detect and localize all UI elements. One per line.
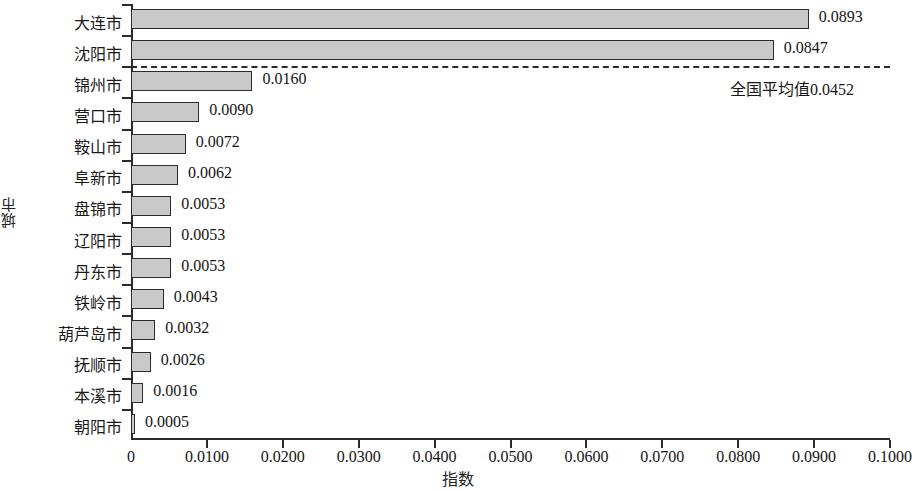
x-tick: [889, 440, 891, 448]
bar: [131, 102, 199, 122]
y-tick: [122, 66, 131, 68]
category-label: 辽阳市: [4, 228, 122, 252]
bar-row: 0.0026: [131, 347, 890, 378]
bar-row: 0.0053: [131, 222, 890, 253]
y-tick: [122, 378, 131, 380]
category-label: 鞍山市: [4, 134, 122, 158]
y-tick: [122, 315, 131, 317]
category-label: 营口市: [4, 103, 122, 127]
bar: [131, 165, 178, 185]
bar-value-label: 0.0053: [181, 195, 225, 213]
y-tick: [122, 253, 131, 255]
bar-value-label: 0.0053: [181, 226, 225, 244]
category-label: 盘锦市: [4, 196, 122, 220]
y-tick: [122, 35, 131, 37]
x-tick-label: 0.0400: [413, 448, 457, 466]
bar-row: 0.0016: [131, 378, 890, 409]
category-label: 大连市: [4, 10, 122, 34]
bar-value-label: 0.0043: [174, 288, 218, 306]
x-tick-label: 0.0200: [261, 448, 305, 466]
x-axis-title: 指数: [0, 466, 915, 490]
bar-row: 0.0090: [131, 97, 890, 128]
bar-value-label: 0.0160: [262, 70, 306, 88]
bar-row: 0.0072: [131, 129, 890, 160]
bar-value-label: 0.0062: [188, 164, 232, 182]
bar-value-label: 0.0016: [153, 382, 197, 400]
x-tick: [206, 440, 208, 448]
x-tick-label: 0: [127, 448, 135, 466]
x-tick: [434, 440, 436, 448]
bar: [131, 40, 774, 60]
bar: [131, 289, 164, 309]
x-tick: [813, 440, 815, 448]
y-tick: [122, 97, 131, 99]
category-label: 抚顺市: [4, 352, 122, 376]
bar-value-label: 0.0026: [161, 351, 205, 369]
bar-value-label: 0.0072: [196, 133, 240, 151]
category-label: 阜新市: [4, 165, 122, 189]
bar-row: 0.0053: [131, 253, 890, 284]
x-tick-label: 0.0600: [564, 448, 608, 466]
x-tick-label: 0.0700: [640, 448, 684, 466]
bar-value-label: 0.0032: [165, 319, 209, 337]
y-tick: [122, 160, 131, 162]
bar-value-label: 0.0053: [181, 257, 225, 275]
bar-row: 0.0005: [131, 409, 890, 440]
x-tick-label: 0.0900: [792, 448, 836, 466]
bar: [131, 227, 171, 247]
bar-row: 0.0893: [131, 4, 890, 35]
bar-row: 0.0043: [131, 284, 890, 315]
bar: [131, 134, 186, 154]
horizontal-bar-chart: 城市 0.08930.08470.01600.00900.00720.00620…: [0, 0, 915, 492]
y-tick: [122, 4, 131, 6]
y-tick: [122, 129, 131, 131]
bar-value-label: 0.0005: [145, 413, 189, 431]
x-tick-label: 0.1000: [868, 448, 912, 466]
category-label: 本溪市: [4, 383, 122, 407]
x-tick-label: 0.0300: [337, 448, 381, 466]
x-tick-label: 0.0500: [489, 448, 533, 466]
x-tick: [358, 440, 360, 448]
category-label: 葫芦岛市: [4, 321, 122, 345]
y-tick: [122, 284, 131, 286]
bar: [131, 383, 143, 403]
x-tick-label: 0.0100: [185, 448, 229, 466]
bar-row: 0.0847: [131, 35, 890, 66]
category-label: 朝阳市: [4, 414, 122, 438]
y-tick: [122, 347, 131, 349]
x-tick: [661, 440, 663, 448]
y-tick: [122, 222, 131, 224]
bar-value-label: 0.0090: [209, 101, 253, 119]
bar: [131, 414, 135, 434]
bar-row: 0.0053: [131, 191, 890, 222]
y-tick: [122, 409, 131, 411]
x-tick: [282, 440, 284, 448]
bar: [131, 9, 809, 29]
bar-row: 0.0062: [131, 160, 890, 191]
bar-value-label: 0.0847: [784, 39, 828, 57]
bar: [131, 320, 155, 340]
bar-row: 0.0032: [131, 315, 890, 346]
bar: [131, 71, 252, 91]
national-average-annotation: 全国平均值0.0452: [730, 76, 854, 100]
category-label: 丹东市: [4, 259, 122, 283]
category-label: 锦州市: [4, 72, 122, 96]
bar: [131, 196, 171, 216]
plot-area: 0.08930.08470.01600.00900.00720.00620.00…: [131, 4, 890, 440]
bar-value-label: 0.0893: [819, 8, 863, 26]
x-tick: [585, 440, 587, 448]
category-label: 铁岭市: [4, 290, 122, 314]
x-tick-label: 0.0800: [716, 448, 760, 466]
national-average-reference-line: [131, 66, 890, 68]
bar: [131, 258, 171, 278]
x-tick: [737, 440, 739, 448]
category-label: 沈阳市: [4, 41, 122, 65]
x-tick: [510, 440, 512, 448]
bar: [131, 352, 151, 372]
y-tick: [122, 191, 131, 193]
